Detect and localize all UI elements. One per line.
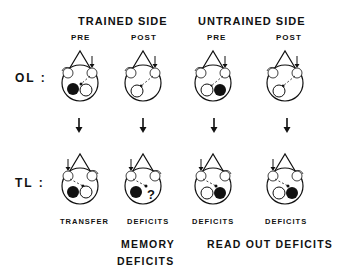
ol-untrained-pre-head	[195, 51, 231, 101]
tl-untrained-post-head	[267, 154, 303, 204]
down-arrow-3	[211, 118, 218, 133]
ol-trained-post-head	[125, 51, 161, 101]
ol-trained-pre-head	[62, 51, 98, 101]
ol-untrained-post-head	[267, 51, 303, 101]
tl-untrained-pre-head	[195, 154, 231, 204]
down-arrow-2	[140, 118, 147, 133]
down-arrow-1	[76, 118, 83, 133]
tl-trained-pre-head	[62, 154, 98, 204]
tl-trained-post-head: ?	[125, 154, 161, 204]
down-arrow-4	[284, 118, 291, 133]
question-mark: ?	[147, 187, 155, 202]
diagram-canvas: ?	[0, 0, 338, 277]
